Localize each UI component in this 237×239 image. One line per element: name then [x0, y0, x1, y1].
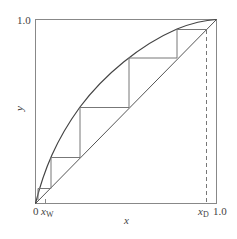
stage-steps — [38, 30, 206, 201]
xd-label: xD — [197, 205, 209, 219]
y-max-label: 1.0 — [17, 14, 31, 26]
x-max-label: 1.0 — [213, 205, 227, 217]
xd-label-sub: D — [203, 210, 209, 219]
origin-label: 0 — [33, 205, 39, 217]
diagonal-line — [36, 20, 217, 204]
xw-label: xW — [40, 205, 54, 219]
x-axis-label: x — [123, 214, 129, 226]
mccabe-thiele-diagram: 1.0 y 0 xW xD 1.0 x — [0, 0, 237, 239]
y-axis-label: y — [13, 106, 25, 112]
xw-label-sub: W — [46, 210, 54, 219]
